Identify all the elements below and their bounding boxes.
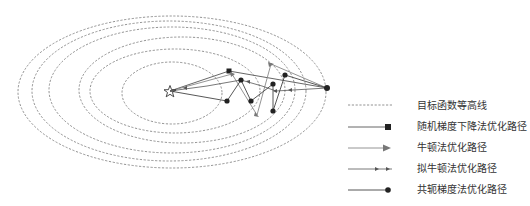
dot-marker-icon [348, 183, 392, 197]
legend-label: 牛顿法优化路径 [417, 141, 487, 155]
square-marker-icon [348, 120, 392, 134]
triangle-arrow-icon [348, 141, 392, 155]
legend-label: 共轭梯度法优化路径 [417, 183, 507, 197]
small-arrows-icon [348, 162, 392, 176]
legend-item-conjugate-gradient: 共轭梯度法优化路径 [348, 183, 530, 197]
legend-item-sgd: 随机梯度下降法优化路径 [348, 120, 530, 134]
legend-label: 拟牛顿法优化路径 [417, 162, 497, 176]
legend-label: 目标函数等高线 [417, 99, 487, 113]
legend-item-quasi-newton: 拟牛顿法优化路径 [348, 162, 530, 176]
contour-2 [32, 21, 306, 161]
contour-6 [122, 62, 222, 124]
legend-item-contour: 目标函数等高线 [348, 99, 530, 113]
dashed-line-icon [348, 99, 392, 113]
start-point-marker [324, 85, 330, 91]
legend-item-newton: 牛顿法优化路径 [348, 141, 530, 155]
contour-4 [79, 37, 285, 143]
quasi-newton-path [170, 80, 327, 93]
legend-label: 随机梯度下降法优化路径 [417, 120, 527, 134]
